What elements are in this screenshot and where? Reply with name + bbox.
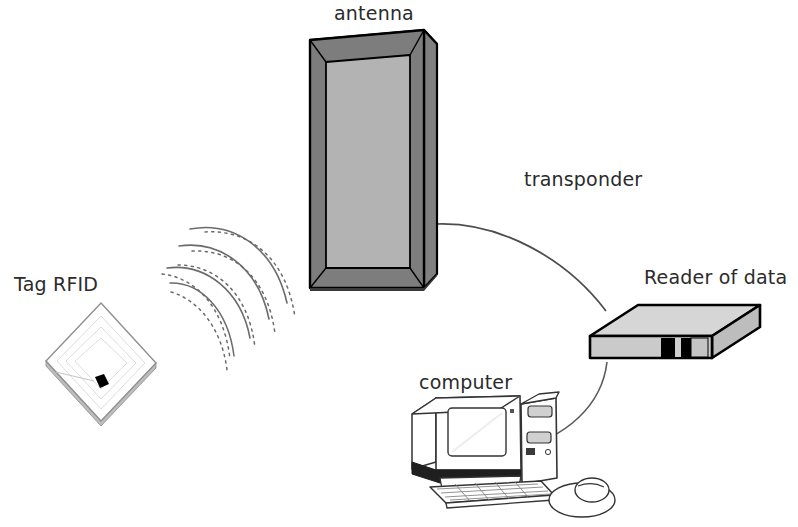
label-antenna: antenna <box>310 4 438 23</box>
tower-drive-bay-top <box>528 406 552 417</box>
rfid-diagram: antenna Tag RFID transponder Reader of d… <box>0 0 798 527</box>
antenna-right-face <box>424 30 437 288</box>
antenna-panel <box>310 30 437 291</box>
antenna-inner-panel <box>326 55 410 268</box>
label-reader-of-data: Reader of data <box>644 268 787 287</box>
reader-slot-right <box>681 338 691 357</box>
wave-arc-solid-1 <box>190 228 287 303</box>
label-computer: computer <box>419 373 512 392</box>
wave-arc-dashed-5 <box>171 292 227 370</box>
reader-slot-panel <box>691 338 708 357</box>
reader-slot-left <box>661 338 675 357</box>
reader-slot-indicator <box>675 338 681 357</box>
label-tag-rfid: Tag RFID <box>14 275 98 294</box>
label-transponder: transponder <box>524 170 642 189</box>
reader-of-data <box>590 305 760 358</box>
transponder-link-curve <box>437 224 606 311</box>
diagram-canvas <box>0 0 798 527</box>
wave-arc-dashed-4 <box>162 274 230 359</box>
mouse-body <box>575 478 609 502</box>
tower-power-button <box>545 449 550 454</box>
tower-floppy-slot <box>526 448 535 455</box>
tag-face <box>46 303 156 421</box>
rfid-tag <box>46 303 156 426</box>
radio-waves-group <box>162 228 295 370</box>
wave-arc-solid-3 <box>167 267 250 338</box>
wave-arc-dashed-2 <box>192 251 275 334</box>
wave-arc-dashed-3 <box>178 265 255 348</box>
tower-drive-bay-mid <box>527 432 551 443</box>
monitor-power-led <box>510 409 514 413</box>
